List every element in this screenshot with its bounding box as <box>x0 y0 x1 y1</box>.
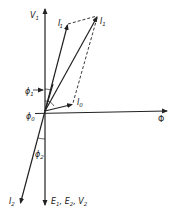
phi-flux-axis <box>35 111 167 114</box>
i1-prime-label: I′1 <box>58 18 63 29</box>
dashed-construction-right <box>73 18 97 103</box>
phi2-label: ϕ2 <box>35 150 44 160</box>
phasor-diagram: V1 I′1 I1 I0 Φ ϕ1 ϕ0 ϕ2 I2 E1, E2, V2 <box>0 0 179 219</box>
dashed-construction-top <box>68 16 97 24</box>
i1-label: I1 <box>100 17 106 27</box>
phi2-arc <box>38 138 45 139</box>
phi-flux-label: Φ <box>158 115 164 124</box>
phi1-label: ϕ1 <box>25 87 34 97</box>
i0-label: I0 <box>77 98 83 108</box>
v1-label: V1 <box>30 11 39 21</box>
e1-e2-v2-label: E1, E2, V2 <box>51 197 88 207</box>
i0-vector <box>45 105 72 112</box>
phi0-label: ϕ0 <box>26 112 35 122</box>
i2-label: I2 <box>9 197 15 207</box>
i1-vector <box>45 17 97 111</box>
